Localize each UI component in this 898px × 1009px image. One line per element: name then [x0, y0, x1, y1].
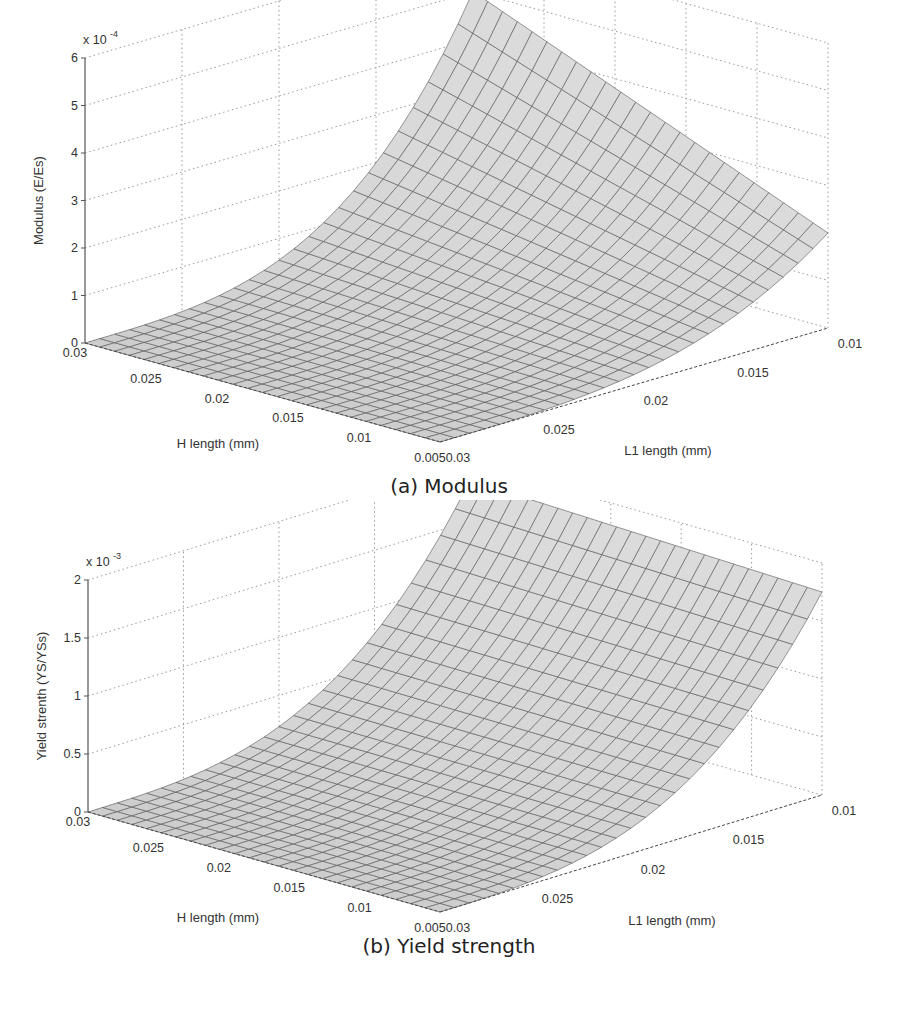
- h-tick-label: 0.02: [205, 392, 229, 406]
- z-tick-label: 1: [74, 689, 81, 703]
- h-tick-label: 0.02: [207, 861, 231, 875]
- z-tick-label: 3: [71, 194, 78, 208]
- h-tick-label: 0.025: [130, 372, 161, 386]
- l-tick-label: 0.025: [543, 423, 574, 437]
- l-tick-label: 0.015: [733, 833, 764, 847]
- l-tick-label: 0.01: [838, 337, 862, 351]
- l-tick-label: 0.03: [446, 921, 470, 935]
- z-tick-label: 6: [71, 51, 78, 65]
- h-tick-label: 0.01: [347, 901, 371, 915]
- panel-yield-strength: 00.511.52x 10-3Yield strenth (YS/YSs)0.0…: [0, 500, 898, 1009]
- h-tick-label: 0.015: [274, 881, 305, 895]
- z-tick-label: 2: [71, 241, 78, 255]
- h-tick-label: 0.005: [414, 921, 445, 935]
- l-tick-label: 0.015: [737, 366, 768, 380]
- caption-yield-strength: (b) Yield strength: [0, 934, 898, 958]
- h-tick-label: 0.01: [347, 431, 371, 445]
- l-axis-label: L1 length (mm): [624, 443, 711, 458]
- z-tick-label: 1.5: [64, 631, 81, 645]
- surface-mesh: [88, 500, 822, 912]
- h-axis-label: H length (mm): [177, 910, 259, 925]
- z-tick-label: 0.5: [64, 747, 81, 761]
- z-axis-label: Modulus (E/Es): [31, 156, 46, 245]
- z-scale-label: x 10: [83, 33, 107, 47]
- surface-mesh: [85, 0, 828, 442]
- l-tick-label: 0.03: [446, 451, 470, 465]
- h-axis-label: H length (mm): [177, 436, 259, 451]
- modulus-surface-plot: 0123456x 10-4Modulus (E/Es)0.030.0250.02…: [0, 0, 898, 470]
- h-tick-label: 0.025: [133, 841, 164, 855]
- z-axis-label: Yield strenth (YS/YSs): [34, 632, 49, 761]
- l-axis-label: L1 length (mm): [628, 913, 715, 928]
- panel-modulus: 0123456x 10-4Modulus (E/Es)0.030.0250.02…: [0, 0, 898, 500]
- h-tick-label: 0.03: [63, 346, 87, 360]
- z-tick-label: 1: [71, 289, 78, 303]
- l-tick-label: 0.01: [832, 804, 856, 818]
- yield-surface-plot: 00.511.52x 10-3Yield strenth (YS/YSs)0.0…: [0, 500, 898, 970]
- h-tick-label: 0.015: [272, 411, 303, 425]
- l-tick-label: 0.02: [641, 863, 665, 877]
- z-tick-label: 2: [74, 573, 81, 587]
- z-scale-exponent: -4: [110, 29, 118, 39]
- h-tick-label: 0.03: [66, 815, 90, 829]
- z-tick-label: 4: [71, 146, 78, 160]
- z-scale-exponent: -3: [113, 551, 121, 561]
- z-scale-label: x 10: [86, 555, 110, 569]
- l-tick-label: 0.025: [542, 892, 573, 906]
- h-tick-label: 0.005: [414, 451, 445, 465]
- z-tick-label: 5: [71, 99, 78, 113]
- l-tick-label: 0.02: [644, 394, 668, 408]
- caption-modulus: (a) Modulus: [0, 474, 898, 498]
